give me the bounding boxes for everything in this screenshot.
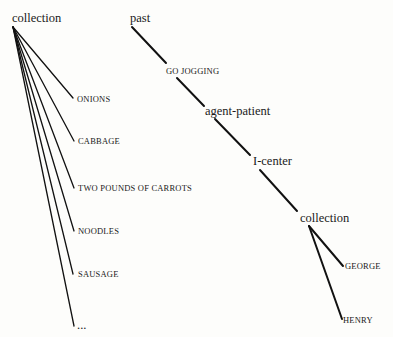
node-collection: collection — [300, 211, 350, 225]
right-tree-edges — [132, 27, 343, 319]
edge-past-gojogging — [132, 27, 166, 63]
leaf-henry: HENRY — [343, 315, 373, 325]
leaf-ellipsis: ... — [77, 318, 86, 332]
leaf-sausage: SAUSAGE — [78, 269, 119, 279]
node-go-jogging: GO JOGGING — [166, 66, 219, 76]
edge-collection-cabbage — [13, 27, 74, 141]
edge-collection-noodles — [13, 27, 74, 231]
left-root-label: collection — [12, 11, 62, 25]
edge-collection-carrots — [13, 27, 74, 188]
leaf-cabbage: CABBAGE — [78, 136, 120, 146]
right-tree-labels: past GO JOGGING agent-patient I-center c… — [130, 11, 381, 325]
edge-collection-ellipsis — [13, 27, 74, 326]
leaf-carrots: TWO POUNDS OF CARROTS — [78, 183, 192, 193]
tree-diagram: collection ONIONS CABBAGE TWO POUNDS OF … — [0, 0, 393, 337]
left-tree-edges — [13, 27, 74, 326]
edge-agentpatient-icenter — [215, 119, 250, 155]
edge-icenter-collection — [260, 170, 297, 211]
edge-gojogging-agentpatient — [177, 78, 204, 106]
edge-collection-george — [309, 226, 343, 266]
node-agent-patient: agent-patient — [205, 104, 271, 118]
edge-collection-sausage — [13, 27, 73, 274]
leaf-noodles: NOODLES — [78, 226, 119, 236]
node-past: past — [130, 11, 151, 25]
leaf-george: GEORGE — [345, 261, 381, 271]
edge-collection-henry — [309, 226, 342, 319]
leaf-onions: ONIONS — [77, 94, 110, 104]
node-i-center: I-center — [253, 154, 293, 168]
left-tree-labels: collection ONIONS CABBAGE TWO POUNDS OF … — [12, 11, 192, 332]
